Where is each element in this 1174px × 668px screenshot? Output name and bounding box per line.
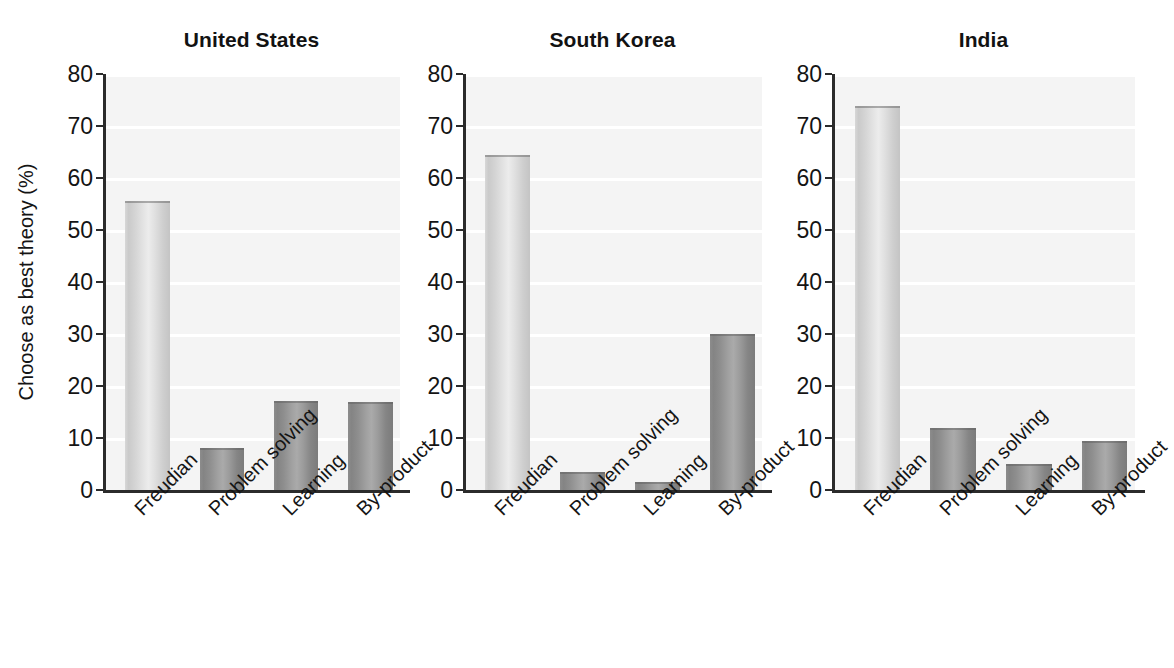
y-axis-tick-label: 50 <box>796 217 822 244</box>
y-axis-line <box>832 74 835 493</box>
y-axis-tick-label: 80 <box>796 61 822 88</box>
bar-top-edge <box>1082 441 1127 443</box>
multi-panel-bar-chart: Choose as best theory (%) United States0… <box>0 0 1174 668</box>
y-axis-tick-mark <box>825 281 832 283</box>
chart-panel: India01020304050607080FreudianProblem so… <box>0 0 1174 668</box>
panel-title: India <box>832 28 1135 52</box>
y-axis-tick-mark <box>825 489 832 491</box>
y-axis-tick-label: 60 <box>796 165 822 192</box>
y-axis-tick-label: 0 <box>809 477 822 504</box>
y-axis-tick-mark <box>825 229 832 231</box>
y-axis-tick-mark <box>825 125 832 127</box>
y-axis-tick-mark <box>825 73 832 75</box>
y-axis-tick-label: 10 <box>796 425 822 452</box>
gridline <box>835 74 1135 77</box>
y-axis-tick-mark <box>825 333 832 335</box>
y-axis-tick-mark <box>825 437 832 439</box>
plot-area <box>835 74 1135 490</box>
y-axis-tick-label: 20 <box>796 373 822 400</box>
bar <box>855 106 900 490</box>
y-axis-tick-label: 70 <box>796 113 822 140</box>
bar-top-edge <box>1006 464 1051 466</box>
y-axis-tick-label: 30 <box>796 321 822 348</box>
y-axis-tick-mark <box>825 177 832 179</box>
bar-top-edge <box>930 428 975 430</box>
y-axis-tick-label: 40 <box>796 269 822 296</box>
bar-top-edge <box>855 106 900 108</box>
y-axis-tick-mark <box>825 385 832 387</box>
